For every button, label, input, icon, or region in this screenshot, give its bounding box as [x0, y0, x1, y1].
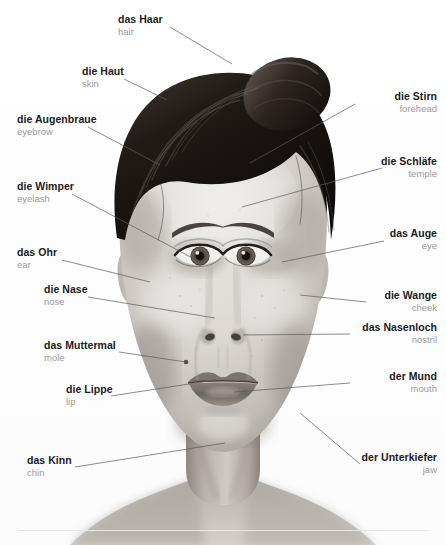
- label-mund[interactable]: der Mundmouth: [389, 371, 437, 394]
- label-unterkiefer-english: jaw: [362, 465, 437, 475]
- mole: [184, 360, 189, 365]
- label-wange[interactable]: die Wangecheek: [384, 290, 437, 313]
- label-auge[interactable]: das Augeeye: [390, 228, 437, 251]
- label-nase-english: nose: [44, 297, 88, 307]
- label-ohr-german: das Ohr: [17, 247, 57, 258]
- face-vocabulary-diagram: das Haarhairdie Hautskindie Augenbraueey…: [0, 0, 446, 545]
- label-haut-german: die Haut: [82, 66, 124, 77]
- label-muttermal[interactable]: das Muttermalmole: [44, 340, 116, 363]
- label-kinn[interactable]: das Kinnchin: [27, 455, 72, 478]
- label-nase-german: die Nase: [44, 284, 88, 295]
- label-muttermal-german: das Muttermal: [44, 340, 116, 351]
- label-haar[interactable]: das Haarhair: [118, 14, 163, 37]
- label-schlaefe[interactable]: die Schläfetemple: [381, 156, 437, 179]
- label-kinn-english: chin: [27, 468, 72, 478]
- label-muttermal-english: mole: [44, 353, 116, 363]
- label-wange-german: die Wange: [384, 290, 437, 301]
- label-wange-english: cheek: [384, 303, 437, 313]
- label-haut-english: skin: [82, 79, 124, 89]
- label-schlaefe-english: temple: [381, 169, 437, 179]
- label-haut[interactable]: die Hautskin: [82, 66, 124, 89]
- label-kinn-german: das Kinn: [27, 455, 72, 466]
- label-nasenloch[interactable]: das Nasenlochnostril: [362, 322, 437, 345]
- label-nase[interactable]: die Nasenose: [44, 284, 88, 307]
- bottom-divider: [18, 530, 428, 531]
- label-nasenloch-german: das Nasenloch: [362, 322, 437, 333]
- label-stirn-german: die Stirn: [395, 91, 437, 102]
- label-haar-german: das Haar: [118, 14, 163, 25]
- label-mund-english: mouth: [389, 384, 437, 394]
- label-mund-german: der Mund: [389, 371, 437, 382]
- label-schlaefe-german: die Schläfe: [381, 156, 437, 167]
- label-nasenloch-english: nostril: [362, 335, 437, 345]
- label-auge-german: das Auge: [390, 228, 437, 239]
- label-ohr[interactable]: das Ohrear: [17, 247, 57, 270]
- label-haar-english: hair: [118, 27, 163, 37]
- label-wimper-english: eyelash: [17, 194, 74, 204]
- label-unterkiefer[interactable]: der Unterkieferjaw: [362, 452, 437, 475]
- label-lippe-english: lip: [66, 397, 113, 407]
- label-augenbraue[interactable]: die Augenbraueeyebrow: [17, 114, 97, 137]
- label-stirn[interactable]: die Stirnforehead: [395, 91, 437, 114]
- label-unterkiefer-german: der Unterkiefer: [362, 452, 437, 463]
- label-wimper[interactable]: die Wimpereyelash: [17, 181, 74, 204]
- label-ohr-english: ear: [17, 260, 57, 270]
- label-augenbraue-german: die Augenbraue: [17, 114, 97, 125]
- label-lippe-german: die Lippe: [66, 384, 113, 395]
- label-auge-english: eye: [390, 241, 437, 251]
- label-augenbraue-english: eyebrow: [17, 127, 97, 137]
- label-lippe[interactable]: die Lippelip: [66, 384, 113, 407]
- label-wimper-german: die Wimper: [17, 181, 74, 192]
- label-stirn-english: forehead: [395, 104, 437, 114]
